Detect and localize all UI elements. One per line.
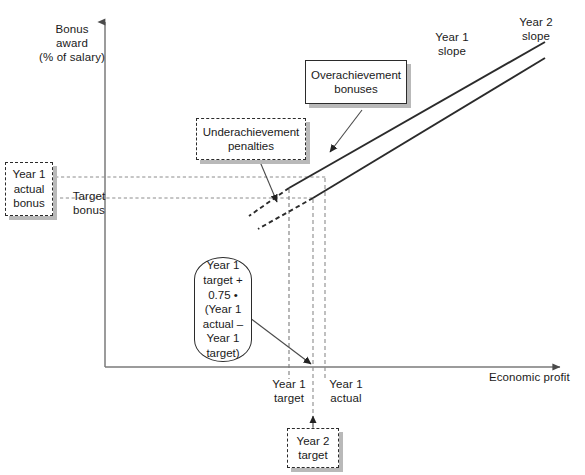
overachievement-leader-arrow: [330, 110, 362, 152]
x-axis-label: Economic profit: [489, 370, 581, 384]
year1-actual-tick-label: Year 1 actual: [318, 377, 374, 405]
underachievement-leader-arrow: [258, 157, 277, 202]
diagram-canvas: Bonus award (% of salary) Economic profi…: [0, 0, 585, 475]
overachievement-bonuses-callout: Overachievement bonuses: [305, 60, 407, 104]
year2-target-callout: Year 2 target: [287, 428, 339, 468]
y-axis-label: Bonus award (% of salary): [28, 22, 116, 64]
year1-slope-underachievement-segment: [249, 188, 289, 216]
year2-slope-underachievement-segment: [258, 198, 313, 229]
year1-actual-bonus-callout: Year 1 actual bonus: [5, 162, 53, 216]
year1-slope-label: Year 1 slope: [424, 30, 480, 58]
formula-leader-arrow: [246, 315, 311, 364]
target-bonus-label: Target bonus: [62, 189, 116, 217]
bonus-formula-capsule: Year 1 target + 0.75 • (Year 1 actual – …: [194, 257, 252, 362]
underachievement-penalties-callout: Underachievement penalties: [196, 118, 306, 160]
year1-target-tick-label: Year 1 target: [261, 377, 317, 405]
year2-slope-label: Year 2 slope: [508, 15, 564, 43]
